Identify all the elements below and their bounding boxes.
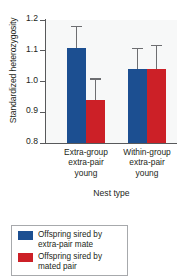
error-cap-group1-series1 [151,45,162,46]
x-group-label-0: Extra-group extra-pair young [53,147,119,178]
legend-label-mated-pair-line1: Offspring sired by [38,252,102,261]
x-group-label-0-line3: young [53,168,119,178]
figure-bar-chart: Standardized heterozygosity 1.2 1.1 1.0 … [0,0,186,280]
y-axis-line [45,19,46,144]
legend-item-mated-pair: Offspring sired by mated pair [12,252,127,272]
bar-group1-series1 [147,69,166,143]
error-bar-group1-series1 [156,45,157,70]
chart-legend: Offspring sired by extra-pair mate Offsp… [11,225,128,276]
bar-group0-series0 [67,48,86,143]
y-tick-label-4: 0.8 [26,137,38,146]
y-tick-label-0: 1.2 [26,14,38,23]
legend-label-extra-pair-mate-line2: extra-pair mate [38,240,93,249]
bar-group0-series1 [86,100,105,143]
y-tick-label-2: 1.0 [26,76,38,85]
error-bar-group0-series0 [76,26,77,48]
y-tick-label-3: 0.9 [26,106,38,115]
x-group-label-1: Within-group extra-pair young [114,147,180,178]
bar-group1-series0 [128,69,147,143]
x-group-label-0-line1: Extra-group [53,147,119,157]
chart-area: Standardized heterozygosity 1.2 1.1 1.0 … [0,0,186,205]
x-axis-title: Nest type [46,189,177,198]
x-axis-line [45,143,177,144]
legend-label-mated-pair-line2: mated pair [38,262,77,271]
y-axis-title: Standardized heterozygosity [9,5,18,135]
legend-item-extra-pair-mate: Offspring sired by extra-pair mate [12,230,127,250]
y-tick-label-1: 1.1 [26,45,38,54]
legend-swatch-red-icon [18,253,33,262]
error-bar-group1-series0 [137,48,138,70]
x-group-label-1-line2: extra-pair [114,157,180,167]
y-tick-1: 1.1 [40,50,45,51]
legend-label-mated-pair: Offspring sired by mated pair [38,252,102,272]
error-cap-group1-series0 [132,48,143,49]
x-group-label-1-line1: Within-group [114,147,180,157]
error-bar-group0-series1 [95,78,96,100]
error-cap-group0-series0 [71,26,82,27]
legend-swatch-blue-icon [18,231,33,240]
legend-label-extra-pair-mate: Offspring sired by extra-pair mate [38,230,102,250]
y-tick-3: 0.9 [40,112,45,113]
error-cap-group0-series1 [90,78,101,79]
x-group-label-1-line3: young [114,168,180,178]
y-tick-0: 1.2 [40,20,45,21]
y-tick-4: 0.8 [40,143,45,144]
legend-label-extra-pair-mate-line1: Offspring sired by [38,230,102,239]
y-tick-2: 1.0 [40,81,45,82]
x-group-label-0-line2: extra-pair [53,157,119,167]
